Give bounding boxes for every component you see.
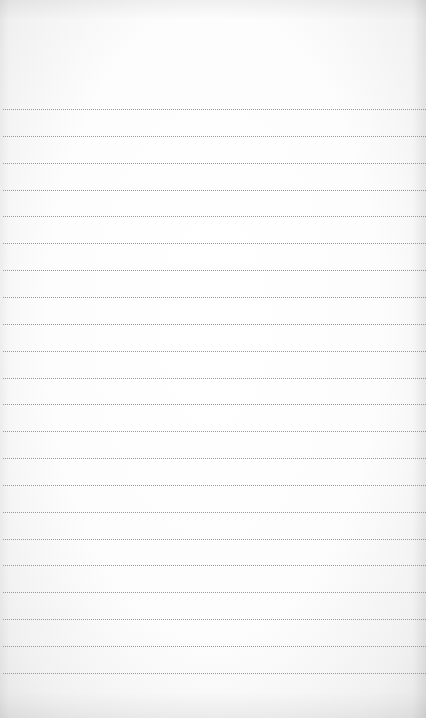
ruled-line xyxy=(3,512,426,513)
ruled-line xyxy=(3,539,426,540)
ruled-line xyxy=(3,351,426,352)
ruled-line xyxy=(3,190,426,191)
ruled-line xyxy=(3,297,426,298)
ruled-line xyxy=(3,136,426,137)
ruled-line xyxy=(3,646,426,647)
ruled-line xyxy=(3,565,426,566)
ruled-line xyxy=(3,270,426,271)
ruled-line xyxy=(3,431,426,432)
ruled-line xyxy=(3,243,426,244)
ruled-line xyxy=(3,163,426,164)
ruled-line xyxy=(3,619,426,620)
ruled-line xyxy=(3,216,426,217)
notepad-page xyxy=(0,0,426,718)
ruled-line xyxy=(3,458,426,459)
ruled-line xyxy=(3,592,426,593)
ruled-line xyxy=(3,324,426,325)
ruled-line xyxy=(3,109,426,110)
ruled-line xyxy=(3,673,426,674)
ruled-lines xyxy=(0,0,426,718)
ruled-line xyxy=(3,378,426,379)
ruled-line xyxy=(3,404,426,405)
ruled-line xyxy=(3,485,426,486)
